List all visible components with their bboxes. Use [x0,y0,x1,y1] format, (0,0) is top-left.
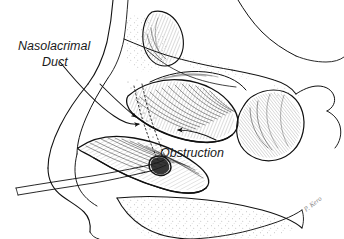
illustration-canvas: Nasolacrimal Duct Obstruction P. Kero [0,0,344,239]
nasolacrimal-duct-label-line1: Nasolacrimal [18,39,91,53]
label-obstruction: Obstruction [160,146,224,160]
nasolacrimal-duct-label-line2: Duct [42,55,68,69]
obstruction-label: Obstruction [160,146,224,160]
anatomical-illustration-figure: Nasolacrimal Duct Obstruction P. Kero [0,0,344,239]
